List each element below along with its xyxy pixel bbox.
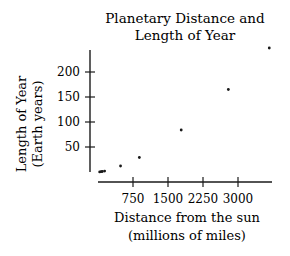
y-axis-label-line-2: (Earth years) — [30, 80, 45, 167]
x-tick-label: 1500 — [153, 192, 184, 206]
y-tick-label: 150 — [57, 90, 80, 104]
y-axis-label-line-1: Length of Year — [14, 75, 29, 172]
data-point — [180, 129, 183, 132]
data-point — [268, 47, 271, 50]
y-axis-label: Length of Year (Earth years) — [14, 75, 45, 172]
y-tick-label: 100 — [57, 115, 80, 129]
x-axis-label-line-2: (millions of miles) — [128, 228, 246, 243]
x-tick-label: 2250 — [188, 192, 219, 206]
chart-title-line-1: Planetary Distance and — [105, 10, 265, 26]
data-points — [98, 47, 270, 174]
data-point — [227, 88, 230, 91]
x-tick-label: 750 — [122, 192, 145, 206]
y-tick-label: 200 — [57, 65, 80, 79]
x-tick-label: 3000 — [223, 192, 254, 206]
y-tick-label: 50 — [65, 140, 80, 154]
x-axis-label: Distance from the sun (millions of miles… — [114, 210, 260, 243]
chart-title: Planetary Distance and Length of Year — [105, 10, 265, 43]
data-point — [138, 156, 141, 159]
x-axis-label-line-1: Distance from the sun — [114, 210, 260, 225]
data-point — [119, 165, 122, 168]
chart-title-line-2: Length of Year — [135, 27, 236, 43]
scatter-chart: Planetary Distance and Length of Year Le… — [0, 0, 290, 256]
data-point — [103, 170, 106, 173]
